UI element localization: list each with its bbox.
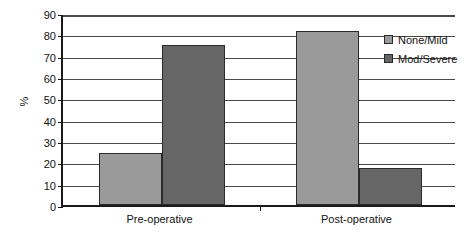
legend-label: None/Mild: [398, 34, 448, 46]
x-axis-tick-mark: [260, 205, 261, 211]
y-axis-tick-label: 70: [44, 52, 56, 63]
y-axis-tick-label: 60: [44, 74, 56, 85]
x-axis-tick-labels: Pre-operativePost-operative: [61, 213, 455, 233]
bar: [162, 45, 225, 205]
y-axis-tick-label: 90: [44, 10, 56, 21]
y-axis-tick-label: 20: [44, 159, 56, 170]
y-axis-tick-label: 40: [44, 116, 56, 127]
legend: None/MildMod/Severe: [384, 31, 469, 69]
y-axis-tick-labels: 0102030405060708090: [30, 15, 56, 207]
x-axis-tick-label: Pre-operative: [126, 213, 192, 226]
y-axis-tick-label: 10: [44, 180, 56, 191]
legend-item: None/Mild: [384, 31, 469, 48]
bar: [99, 153, 162, 205]
bar: [296, 31, 359, 205]
legend-swatch-icon: [384, 54, 393, 63]
bar: [359, 168, 422, 205]
y-axis-tick-label: 30: [44, 138, 56, 149]
y-axis-tick-label: 0: [50, 202, 56, 213]
bar-chart: % 0102030405060708090 Pre-operativePost-…: [0, 0, 469, 237]
y-axis-tick-label: 50: [44, 95, 56, 106]
y-axis-tick-mark: [58, 207, 63, 208]
legend-swatch-icon: [384, 35, 393, 44]
legend-label: Mod/Severe: [398, 53, 457, 65]
y-axis-title: %: [19, 92, 30, 112]
x-axis-tick-label: Post-operative: [321, 213, 392, 226]
legend-item: Mod/Severe: [384, 50, 469, 67]
y-axis-tick-label: 80: [44, 31, 56, 42]
